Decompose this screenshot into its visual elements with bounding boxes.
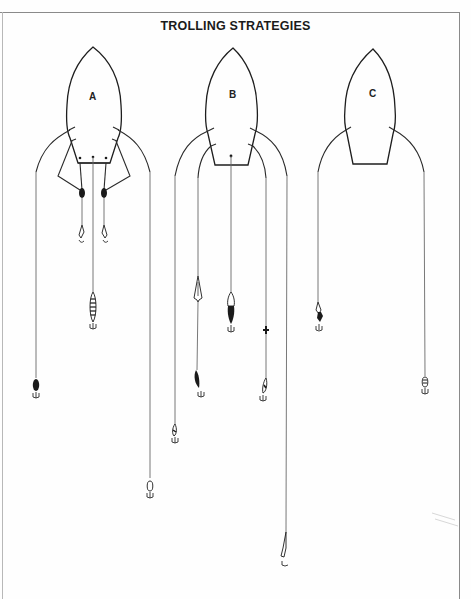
treble-hook-icon: [33, 392, 39, 398]
treble-hook-icon: [172, 437, 178, 443]
plug-head-icon: [228, 292, 235, 306]
treble-hook-icon: [260, 395, 266, 401]
lure-a-inner-left: [79, 225, 84, 242]
line-b-far-right: [286, 176, 287, 532]
spoon-icon: [79, 225, 84, 238]
lure-a-center: [90, 292, 96, 329]
line-b-far-left-arc: [175, 131, 208, 176]
rod-holder-icon: [105, 157, 108, 160]
rod-icon: [211, 144, 216, 146]
line-c-right-arc: [394, 130, 424, 172]
rod-icon: [346, 127, 351, 130]
sinker-icon: [101, 188, 107, 198]
line-c-left-arc: [318, 130, 346, 172]
boat-c: C: [316, 49, 428, 394]
rod-icon: [389, 127, 394, 130]
lure-c-right: [422, 377, 428, 394]
treble-hook-icon: [422, 388, 428, 394]
plug-icon: [33, 379, 39, 391]
lure-b-center: [228, 292, 235, 332]
lure-b-far-left: [172, 424, 178, 443]
sinker-icon: [79, 188, 85, 198]
boat-a-hull: [67, 47, 122, 163]
rod-icon: [112, 139, 117, 141]
line-a-inner-left-rod: [80, 163, 82, 190]
boat-b-label: B: [229, 89, 236, 100]
boat-a: A: [33, 47, 153, 498]
boat-b-hull: [206, 48, 258, 165]
treble-hook-icon: [198, 391, 204, 397]
rod-icon: [250, 128, 256, 131]
treble-hook-icon: [228, 325, 234, 332]
line-b-inner-right-arc: [253, 146, 266, 178]
boat-a-label: A: [89, 91, 96, 102]
boat-b: B: [172, 48, 288, 566]
boat-c-label: C: [369, 88, 376, 99]
swivel-icon: [263, 326, 269, 334]
line-a-inner-left-outrigger: [58, 141, 80, 190]
boat-c-hull: [345, 49, 396, 164]
line-b-inner-left-lower: [197, 302, 198, 370]
line-a-far-right-arc: [118, 130, 150, 172]
lure-b-far-right: [281, 532, 288, 566]
treble-hook-icon: [282, 561, 288, 566]
line-b-inner-left-arc: [198, 146, 211, 178]
rod-holder-icon: [79, 157, 82, 160]
trolling-diagram: A: [0, 0, 471, 599]
treble-hook-icon: [90, 323, 96, 329]
minnow-icon: [195, 370, 200, 388]
rod-icon: [69, 127, 75, 130]
treble-hook-icon: [147, 492, 153, 498]
long-plug-icon: [281, 532, 286, 557]
plug-icon: [422, 377, 428, 387]
lure-b-inner-left: [195, 370, 204, 397]
rod-icon: [71, 139, 76, 141]
lure-c-left: [316, 302, 323, 331]
lure-b-inner-right: [260, 378, 267, 401]
line-a-inner-right-rod: [104, 163, 106, 190]
diagram-page: TROLLING STRATEGIES A: [0, 0, 471, 599]
plug-icon: [147, 481, 153, 491]
hook-icon: [79, 240, 84, 242]
rod-icon: [113, 127, 119, 130]
lure-a-inner-right: [102, 225, 108, 242]
spoon-icon: [102, 225, 107, 238]
treble-hook-icon: [316, 324, 322, 331]
line-a-inner-right-outrigger: [106, 141, 130, 190]
line-b-far-right-arc: [256, 131, 287, 176]
hook-icon: [103, 240, 108, 242]
spoon-plug-icon: [228, 306, 235, 324]
line-a-far-left-arc: [36, 130, 70, 172]
lure-a-far-left: [33, 379, 39, 398]
jig-skirt-icon: [317, 312, 323, 322]
line-c-right: [424, 172, 425, 376]
diving-planer-b: [194, 276, 202, 302]
rod-icon: [208, 128, 214, 131]
lure-a-far-right: [147, 481, 153, 498]
